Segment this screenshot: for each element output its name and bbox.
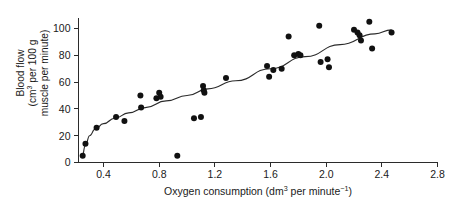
data-point <box>357 32 363 38</box>
x-axis-ticks: 0.40.81.21.62.02.42.8 <box>96 163 445 181</box>
data-point <box>270 67 276 73</box>
x-tick-label: 0.4 <box>96 168 111 180</box>
x-tick-label: 1.2 <box>208 168 223 180</box>
data-point <box>191 115 197 121</box>
trend-line <box>82 30 392 157</box>
data-point <box>138 105 144 111</box>
y-tick-label: 40 <box>59 103 71 115</box>
data-point <box>94 125 100 131</box>
y-axis-title: Blood flow(cm3 per 100 gmuscle per minut… <box>15 0 51 148</box>
data-point <box>223 75 229 81</box>
data-point <box>366 19 372 25</box>
data-point <box>389 30 395 36</box>
y-tick-label: 20 <box>59 130 71 142</box>
data-point <box>297 52 303 58</box>
data-point <box>279 66 285 72</box>
data-point <box>80 153 86 159</box>
figure-container: 020406080100 0.40.81.21.62.02.42.8 Oxyge… <box>0 0 466 209</box>
data-point <box>82 141 88 147</box>
data-point <box>316 23 322 29</box>
y-tick-label: 100 <box>53 22 71 34</box>
x-tick-label: 1.6 <box>263 168 278 180</box>
data-point <box>358 38 364 44</box>
x-tick-label: 0.8 <box>152 168 167 180</box>
y-axis-title-line: Blood flow <box>15 0 27 148</box>
data-point <box>266 74 272 80</box>
scatter-plot: 020406080100 0.40.81.21.62.02.42.8 Oxyge… <box>0 0 466 209</box>
data-point <box>113 114 119 120</box>
x-tick-label: 2.4 <box>375 168 390 180</box>
data-point <box>264 63 270 69</box>
data-point <box>158 94 164 100</box>
x-axis-title: Oxygen consumption (dm3 per minute−1) <box>164 184 352 197</box>
data-point <box>201 90 207 96</box>
y-tick-label: 60 <box>59 76 71 88</box>
data-point <box>369 46 375 52</box>
data-point <box>198 114 204 120</box>
data-point <box>174 153 180 159</box>
x-tick-label: 2.0 <box>319 168 334 180</box>
data-point <box>325 56 331 62</box>
y-axis-title-line: muscle per minute) <box>39 0 51 148</box>
data-points <box>80 19 395 159</box>
y-axis-ticks: 020406080100 <box>53 22 79 168</box>
y-axis-title-line: (cm3 per 100 g <box>27 0 39 148</box>
data-point <box>318 59 324 65</box>
data-point <box>137 93 143 99</box>
y-tick-label: 0 <box>65 156 71 168</box>
data-point <box>286 34 292 40</box>
data-point <box>121 118 127 124</box>
data-point <box>326 64 332 70</box>
x-tick-label: 2.8 <box>430 168 445 180</box>
y-tick-label: 80 <box>59 49 71 61</box>
